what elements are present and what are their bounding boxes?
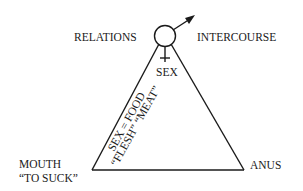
male-arrow-head [185,15,195,24]
label-sex: SEX [156,66,178,78]
symbol-circle [155,26,176,47]
label-intercourse: INTERCOURSE [197,31,276,43]
label-anus: ANUS [250,159,281,171]
label-to-suck: “TO SUCK” [19,172,78,184]
triangle-right-side [171,44,244,170]
label-relations: RELATIONS [74,31,137,43]
label-mouth: MOUTH [19,158,61,170]
male-female-symbol-icon [155,15,196,62]
triangle-diagram: RELATIONS INTERCOURSE SEX MOUTH “TO SUCK… [0,0,303,191]
